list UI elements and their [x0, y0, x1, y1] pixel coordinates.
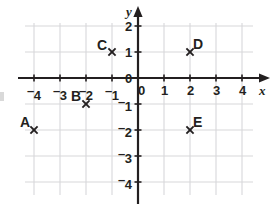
tick-value: 0: [138, 83, 145, 98]
x-tick-label: –1: [105, 84, 119, 102]
tick-value: 0: [125, 71, 132, 86]
axes-group: [18, 6, 270, 204]
coordinate-plane-canvas: [0, 0, 275, 212]
y-axis-label: y: [126, 5, 132, 18]
tick-value: 4: [125, 177, 132, 192]
minus-sign: –: [105, 83, 112, 98]
y-tick-label: 1: [125, 46, 132, 59]
tick-value: 4: [239, 83, 246, 98]
tick-value: 2: [86, 88, 93, 103]
point-label-d: D: [193, 37, 203, 51]
minus-sign: –: [27, 83, 34, 98]
point-label-c: C: [97, 38, 107, 52]
y-tick-label: –3: [118, 147, 132, 165]
y-tick-label: –1: [118, 95, 132, 113]
x-tick-label: 0: [138, 84, 145, 97]
x-tick-label: 2: [187, 84, 194, 97]
tick-value: 2: [125, 125, 132, 140]
tick-value: 3: [213, 83, 220, 98]
point-label-e: E: [193, 115, 202, 129]
tick-value: 2: [187, 83, 194, 98]
point-label-b: B: [71, 89, 81, 103]
x-tick-label: –3: [53, 84, 67, 102]
minus-sign: –: [118, 94, 125, 109]
coordinate-plane-figure: –4–3–2–101234210–1–2–3–4xyABCDE: [0, 0, 275, 212]
x-tick-label: 1: [161, 84, 168, 97]
y-tick-label: –4: [118, 173, 132, 191]
y-tick-label: 0: [125, 72, 132, 85]
minus-sign: –: [118, 120, 125, 135]
page-edge-artifact: [0, 92, 4, 101]
point-label-a: A: [20, 115, 30, 129]
y-axis-arrowhead: [133, 6, 142, 17]
x-axis-label: x: [259, 84, 266, 97]
tick-value: 3: [125, 151, 132, 166]
tick-value: 2: [125, 19, 132, 34]
tick-value: 1: [161, 83, 168, 98]
x-axis-arrowhead: [259, 73, 270, 82]
tick-value: 1: [125, 45, 132, 60]
minus-sign: –: [118, 146, 125, 161]
x-tick-label: 4: [239, 84, 246, 97]
tick-value: 3: [60, 88, 67, 103]
y-tick-label: –2: [118, 121, 132, 139]
tick-value: 4: [34, 88, 41, 103]
tick-value: 1: [125, 99, 132, 114]
y-tick-label: 2: [125, 20, 132, 33]
minus-sign: –: [118, 172, 125, 187]
x-tick-label: 3: [213, 84, 220, 97]
minus-sign: –: [53, 83, 60, 98]
x-tick-label: –4: [27, 84, 41, 102]
